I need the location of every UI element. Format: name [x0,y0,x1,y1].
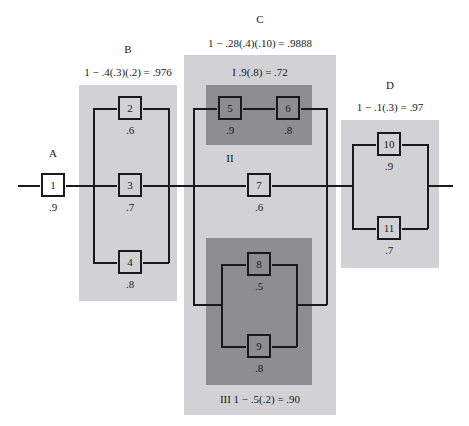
subsystem-d-label: D [380,79,400,91]
c-wire-9-left [221,346,246,348]
component-6-reliability: .8 [273,124,303,136]
component-2: 2 [118,96,142,120]
subsystem-a-label: A [43,147,63,159]
component-8: 8 [247,252,271,276]
subsystem-c-iii-label: III 1 − .5(.2) = .90 [195,393,325,405]
component-8-reliability: .5 [244,280,274,292]
b-wire-4-right [143,262,169,264]
subsystem-c-i-label: I .9(.8) = .72 [200,66,320,78]
subsystem-c-formula: 1 − .28(.4)(.10) = .9888 [190,37,330,49]
component-4: 4 [118,250,142,274]
b-wire-2-right [143,108,169,110]
c-wire-iii-right [296,304,327,306]
component-11-reliability: .7 [374,244,404,256]
d-wire-11-left [352,228,376,230]
d-wire-11-right [402,228,428,230]
component-6: 6 [276,96,300,120]
component-11: 11 [377,216,401,240]
component-3: 3 [118,173,142,197]
main-line-out [427,185,453,187]
main-line-c-d [272,185,352,187]
subsystem-c-ii-label: II [220,152,240,164]
c-wire-iii-left [193,304,222,306]
subsystem-b-label: B [118,43,138,55]
b-left-rail [93,108,95,263]
component-5-reliability: .9 [215,124,245,136]
component-10: 10 [377,132,401,156]
b-wire-4-left [93,262,117,264]
d-right-rail [427,144,429,229]
main-line-in [18,185,40,187]
d-left-rail [352,144,354,229]
c-wire-5-6 [243,108,275,110]
component-4-reliability: .8 [115,278,145,290]
component-10-reliability: .9 [374,160,404,172]
c-wire-8-left [221,264,246,266]
subsystem-c-label: C [250,13,270,25]
c-wire-6-right [301,108,327,110]
component-3-reliability: .7 [115,201,145,213]
subsystem-d-formula: 1 − .1(.3) = .97 [340,101,440,113]
d-wire-10-left [352,144,376,146]
main-line-b-c [143,185,246,187]
component-5: 5 [218,96,242,120]
component-2-reliability: .6 [115,124,145,136]
main-line-1-b [66,185,117,187]
subsystem-b-formula: 1 − .4(.3)(.2) = .976 [60,66,196,78]
c-wire-5-left [193,108,217,110]
c-iii-left-rail [221,264,223,347]
b-right-rail [168,108,170,263]
c-right-rail [326,108,328,305]
b-wire-2-left [93,108,117,110]
component-7: 7 [247,173,271,197]
component-7-reliability: .6 [244,201,274,213]
c-left-rail [193,108,195,305]
component-1-reliability: .9 [38,201,68,213]
component-9: 9 [247,334,271,358]
c-iii-right-rail [296,264,298,347]
c-wire-8-right [272,264,297,266]
component-9-reliability: .8 [244,362,274,374]
c-wire-9-right [272,346,297,348]
component-1: 1 [41,173,65,197]
d-wire-10-right [402,144,428,146]
